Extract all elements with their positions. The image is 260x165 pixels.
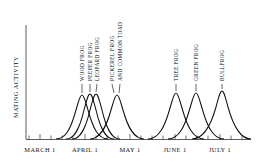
curve-bullfrog — [192, 91, 251, 139]
curve-group — [56, 91, 251, 139]
curve-label-green-frog: GREEN FROG — [193, 44, 199, 81]
curve-label-and-common-toad: AND COMMON TOAD — [117, 22, 123, 81]
curve-label-peeper-frog: PEEPER FROG — [87, 42, 93, 81]
curve-label-tree-frog: TREE FROG — [173, 49, 179, 81]
curve-tree-frog — [148, 93, 204, 139]
curve-label-bullfrog: BULLFROG — [219, 50, 225, 81]
chart-canvas — [0, 0, 260, 165]
curve-label-pickerel-frog: PICKEREL FROG — [109, 35, 115, 81]
curve-label-leopard-frog: LEOPARD FROG — [94, 37, 100, 81]
mating-activity-chart: MATING ACTIVITY WOOD FROG PEEPER FROG LE… — [0, 0, 260, 165]
curve-green-frog — [168, 93, 224, 139]
leader-lines — [82, 84, 222, 93]
curve-label-wood-frog: WOOD FROG — [79, 45, 85, 81]
x-tick-label-july: JULY 1 — [194, 146, 246, 153]
y-axis-label: MATING ACTIVITY — [12, 56, 19, 118]
